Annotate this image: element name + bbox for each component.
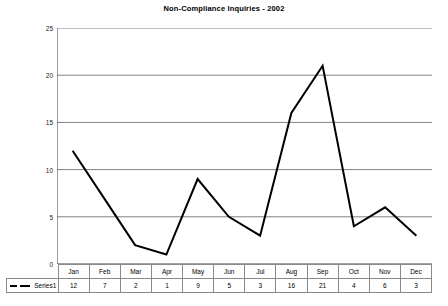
data-table: JanFebMarAprMayJunJulAugSepOctNovDec Ser… — [6, 264, 432, 293]
table-value-apr: 1 — [151, 279, 182, 293]
y-axis-label-25: 25 — [30, 25, 53, 32]
y-axis-label-20: 20 — [30, 72, 53, 79]
line-chart-svg — [57, 28, 432, 264]
legend-label: Series1 — [34, 282, 56, 290]
table-header-jan: Jan — [58, 265, 89, 279]
gridlines — [57, 28, 432, 217]
y-axis-label-15: 15 — [30, 119, 53, 126]
table-value-may: 9 — [183, 279, 214, 293]
chart-title: Non-Compliance Inquiries - 2002 — [0, 4, 448, 13]
table-value-dec: 3 — [400, 279, 431, 293]
table-header-sep: Sep — [307, 265, 338, 279]
table-header-may: May — [183, 265, 214, 279]
table-corner-cell — [7, 265, 59, 279]
table-value-oct: 4 — [338, 279, 369, 293]
table-header-apr: Apr — [151, 265, 182, 279]
legend-cell: Series1 — [7, 279, 59, 293]
table-value-sep: 21 — [307, 279, 338, 293]
y-axis-label-10: 10 — [30, 166, 53, 173]
table-header-oct: Oct — [338, 265, 369, 279]
y-axis-label-5: 5 — [30, 213, 53, 220]
series-lines — [73, 66, 417, 255]
table-header-row: JanFebMarAprMayJunJulAugSepOctNovDec — [7, 265, 432, 279]
table-header-aug: Aug — [276, 265, 307, 279]
table-header-feb: Feb — [89, 265, 120, 279]
table-header-mar: Mar — [120, 265, 151, 279]
table-value-aug: 16 — [276, 279, 307, 293]
chart-container: Non-Compliance Inquiries - 2002 05101520… — [0, 0, 448, 306]
plot-area — [57, 28, 432, 264]
table-row: Series1 127219531621463 — [7, 279, 432, 293]
table-value-jan: 12 — [58, 279, 89, 293]
table-value-jun: 5 — [214, 279, 245, 293]
table-header-jul: Jul — [245, 265, 276, 279]
series-line-icon — [10, 283, 32, 289]
table-header-nov: Nov — [369, 265, 400, 279]
table-value-jul: 3 — [245, 279, 276, 293]
table-header-dec: Dec — [400, 265, 431, 279]
table-value-mar: 2 — [120, 279, 151, 293]
series-line-1 — [73, 66, 417, 255]
table-value-feb: 7 — [89, 279, 120, 293]
table-header-jun: Jun — [214, 265, 245, 279]
axis-lines — [57, 28, 432, 264]
y-axis-tick-labels: 0510152025 — [30, 28, 53, 264]
table-value-nov: 6 — [369, 279, 400, 293]
